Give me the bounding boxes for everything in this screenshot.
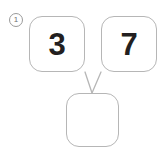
- problem-number-badge: 1: [9, 13, 23, 27]
- addend-left-box[interactable]: 3: [29, 16, 85, 72]
- sum-answer-box[interactable]: [66, 93, 119, 147]
- number-bond-worksheet: 1 3 7: [0, 0, 165, 160]
- addend-right-box[interactable]: 7: [101, 16, 157, 72]
- addend-left-value: 3: [48, 29, 65, 60]
- addend-right-value: 7: [120, 29, 137, 60]
- problem-number-label: 1: [14, 16, 18, 24]
- connector-line-right: [92, 72, 101, 93]
- connector-line-left: [85, 72, 92, 93]
